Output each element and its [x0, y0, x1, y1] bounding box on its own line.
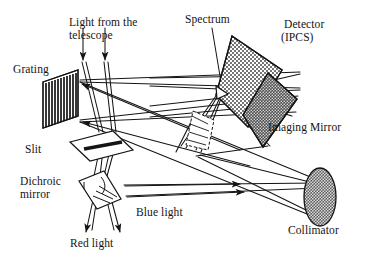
beam-blue-light — [124, 183, 318, 197]
label-blue-light: Blue light — [136, 206, 183, 219]
label-dichroic-mirror-line2: mirror — [20, 188, 50, 201]
label-light-from-telescope-line2: telescope — [69, 29, 113, 42]
label-detector-line1: Detector — [284, 18, 324, 31]
label-red-light: Red light — [70, 237, 113, 250]
label-spectrum: Spectrum — [185, 13, 230, 26]
label-collimator: Collimator — [288, 224, 339, 237]
label-imaging-mirror: Imaging Mirror — [268, 121, 341, 134]
slit-component — [70, 131, 133, 161]
label-slit: Slit — [25, 143, 41, 156]
collimator-component — [304, 168, 336, 226]
label-dichroic-mirror-line1: Dichroic — [20, 175, 61, 188]
label-grating: Grating — [13, 63, 49, 76]
figure-canvas: Grating Light from the telescope Spectru… — [0, 0, 369, 264]
label-light-from-telescope-line1: Light from the — [69, 16, 137, 29]
grating-component — [43, 70, 78, 128]
label-detector-line2: (IPCS) — [281, 31, 314, 44]
dichroic-mirror-component — [79, 171, 121, 209]
